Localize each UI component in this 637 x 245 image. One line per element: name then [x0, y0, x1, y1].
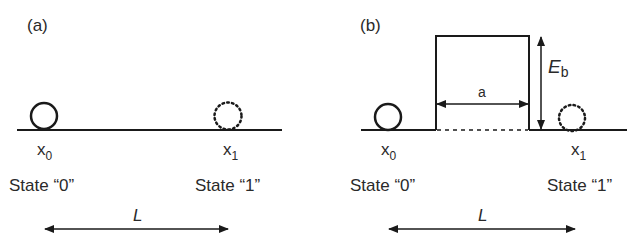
- position-x1-label: x1: [571, 140, 587, 163]
- distance-label: L: [478, 206, 487, 225]
- ball-state-0-icon: [31, 103, 57, 129]
- energy-barrier: [436, 36, 529, 130]
- state-1-label: State “1”: [195, 176, 261, 195]
- state-0-label: State “0”: [9, 176, 75, 195]
- ball-state-0-icon: [375, 104, 401, 130]
- state-0-label: State “0”: [350, 176, 416, 195]
- barrier-width-label: a: [478, 84, 486, 100]
- position-x1-label: x1: [223, 140, 239, 163]
- ball-state-1-dotted-icon: [559, 105, 585, 131]
- barrier-height-label: Eb: [548, 56, 569, 80]
- ball-state-1-dotted-icon: [215, 103, 242, 130]
- distance-label: L: [133, 206, 142, 225]
- panel-b: (b) a Eb x0 x1 State “0” State “1” L: [350, 16, 627, 229]
- panel-a: (a) x0 x1 State “0” State “1” L: [9, 16, 282, 229]
- position-x0-label: x0: [37, 140, 53, 163]
- position-x0-label: x0: [381, 140, 397, 163]
- state-1-label: State “1”: [547, 176, 613, 195]
- panel-a-label: (a): [27, 16, 48, 35]
- panel-b-label: (b): [360, 16, 381, 35]
- bit-state-diagram: (a) x0 x1 State “0” State “1” L (b) a Eb…: [0, 0, 637, 245]
